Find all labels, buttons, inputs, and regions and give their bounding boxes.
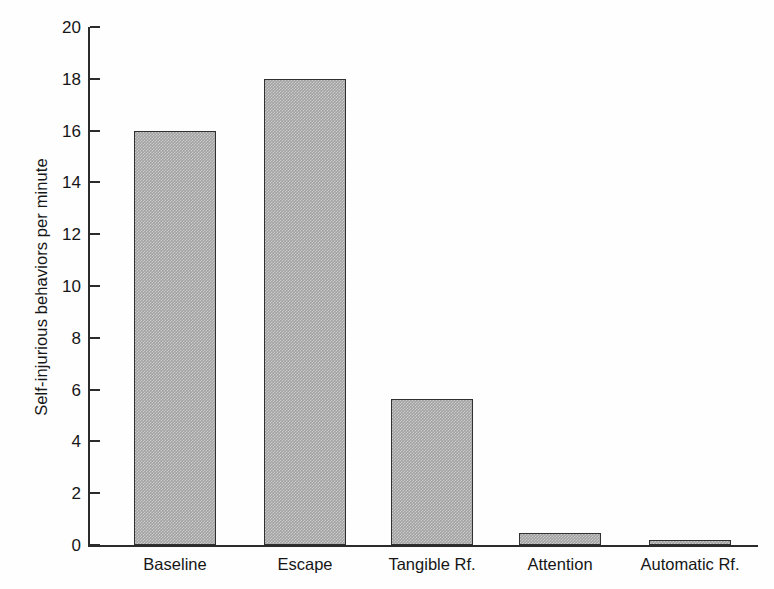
y-axis-title: Self-injurious behaviors per minute [28, 27, 54, 547]
y-axis-tick: 20 [90, 26, 100, 28]
bar-chart-figure: Self-injurious behaviors per minute 0246… [0, 0, 774, 589]
y-axis-tick-label: 8 [72, 329, 81, 346]
y-axis-tick-label: 12 [62, 226, 81, 243]
y-axis-tick-label: 6 [72, 381, 81, 398]
y-axis-tick: 2 [90, 492, 100, 494]
y-axis-tick-label: 4 [72, 433, 81, 450]
x-axis-category-label: Attention [527, 556, 592, 573]
x-axis-category-label: Automatic Rf. [640, 556, 739, 573]
y-axis-tick-label: 10 [62, 278, 81, 295]
y-axis-tick: 18 [90, 78, 100, 80]
bar [264, 79, 346, 545]
y-axis-line [88, 27, 90, 547]
y-axis-tick-label: 20 [62, 19, 81, 36]
y-axis-tick-label: 2 [72, 485, 81, 502]
x-axis-category-label: Escape [277, 556, 332, 573]
y-axis-tick: 12 [90, 233, 100, 235]
plot-area: 02468101214161820 BaselineEscapeTangible… [88, 27, 758, 547]
bar [391, 399, 473, 545]
y-axis-tick: 4 [90, 440, 100, 442]
y-axis-tick-label: 14 [62, 174, 81, 191]
x-axis-line [88, 545, 758, 547]
bar [649, 540, 731, 545]
y-axis-tick: 6 [90, 389, 100, 391]
x-axis-category-label: Tangible Rf. [388, 556, 475, 573]
y-axis-tick: 16 [90, 130, 100, 132]
y-axis-tick-label: 18 [62, 70, 81, 87]
y-axis-tick: 0 [90, 544, 100, 546]
x-axis-category-label: Baseline [143, 556, 206, 573]
y-axis-tick-label: 16 [62, 122, 81, 139]
bar [134, 131, 216, 545]
y-axis-tick: 10 [90, 285, 100, 287]
y-axis-tick: 14 [90, 181, 100, 183]
y-axis-tick-label: 0 [72, 537, 81, 554]
y-axis-tick: 8 [90, 337, 100, 339]
bar [519, 533, 601, 545]
